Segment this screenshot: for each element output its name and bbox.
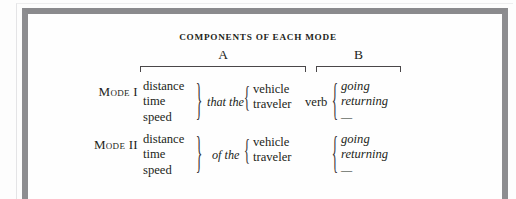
subject-item: traveler xyxy=(253,97,291,112)
subject-stack-2: vehicle traveler xyxy=(253,135,291,166)
aspect-item: returning xyxy=(341,147,388,162)
measure-item: distance xyxy=(143,132,184,147)
subject-item: vehicle xyxy=(253,135,291,150)
page-title: COMPONENTS OF EACH MODE xyxy=(0,32,516,42)
head-word-1: verb xyxy=(305,95,327,110)
measures-stack-2: distance time speed xyxy=(143,132,184,178)
aspect-item: going xyxy=(341,79,388,94)
mode-label-2: Mode II xyxy=(56,137,138,153)
measure-item: distance xyxy=(143,79,184,94)
closing-brace-icon: } xyxy=(196,79,203,122)
closing-brace-icon: } xyxy=(196,132,203,175)
figure-root: COMPONENTS OF EACH MODE A B Mode I dista… xyxy=(0,0,516,199)
aspect-item: — xyxy=(341,163,388,178)
column-group-bracket-a xyxy=(140,66,306,72)
aspect-stack-1: going returning — xyxy=(341,79,388,125)
aspect-stack-2: going returning — xyxy=(341,132,388,178)
opening-brace-icon: { xyxy=(332,132,338,175)
connective-phrase-1: that the xyxy=(207,95,244,110)
measure-item: speed xyxy=(143,163,184,178)
opening-brace-icon: { xyxy=(332,79,338,122)
opening-brace-icon: { xyxy=(244,82,250,112)
table-row: Mode II distance time speed } of the { v… xyxy=(0,131,516,181)
column-group-label-b: B xyxy=(316,48,401,62)
subject-item: traveler xyxy=(253,150,291,165)
measures-stack-1: distance time speed xyxy=(143,79,184,125)
aspect-item: — xyxy=(341,110,388,125)
subject-stack-1: vehicle traveler xyxy=(253,82,291,113)
mode-label-1: Mode I xyxy=(56,84,138,100)
column-group-bracket-b xyxy=(316,66,401,72)
table-row: Mode I distance time speed } that the { … xyxy=(0,78,516,128)
measure-item: speed xyxy=(143,110,184,125)
aspect-item: going xyxy=(341,132,388,147)
opening-brace-icon: { xyxy=(244,135,250,165)
connective-phrase-2: of the xyxy=(212,148,239,163)
subject-item: vehicle xyxy=(253,82,291,97)
measure-item: time xyxy=(143,94,184,109)
column-group-label-a: A xyxy=(140,48,306,62)
measure-item: time xyxy=(143,147,184,162)
aspect-item: returning xyxy=(341,94,388,109)
